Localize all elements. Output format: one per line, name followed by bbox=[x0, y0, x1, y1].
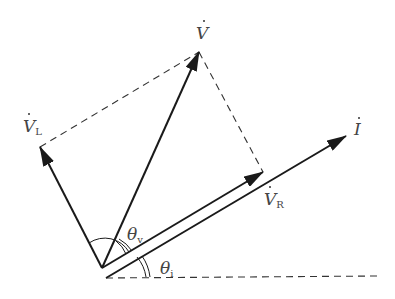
label-vl-text: V bbox=[23, 116, 35, 136]
label-i-text: I bbox=[354, 119, 361, 139]
label-vl: VL bbox=[23, 118, 42, 137]
dashed-vl-to-v bbox=[40, 52, 199, 147]
label-vl-subscript: L bbox=[35, 126, 42, 137]
label-vr-subscript: R bbox=[276, 199, 284, 210]
vectors bbox=[40, 52, 346, 278]
vector-v bbox=[102, 52, 199, 268]
label-vr: VR bbox=[264, 191, 284, 210]
label-theta-v: θv bbox=[127, 226, 143, 245]
phasor-drawing bbox=[0, 0, 395, 299]
label-v: V bbox=[196, 25, 208, 42]
dot-v bbox=[203, 20, 205, 22]
dashed-v-to-vr bbox=[199, 52, 263, 172]
label-theta-i-subscript: i bbox=[170, 268, 173, 279]
dashed-horizontal-reference bbox=[106, 276, 378, 278]
dot-vl bbox=[28, 113, 30, 115]
label-i: I bbox=[354, 121, 361, 138]
label-vr-text: V bbox=[264, 189, 276, 209]
label-v-text: V bbox=[196, 23, 208, 43]
arc-right-angle bbox=[89, 238, 129, 252]
label-theta-i-text: θ bbox=[160, 258, 170, 278]
dot-vr bbox=[269, 186, 271, 188]
label-theta-i: θi bbox=[160, 260, 173, 279]
label-theta-v-text: θ bbox=[127, 224, 137, 244]
vector-vl bbox=[40, 147, 102, 268]
phasor-diagram: V VL VR I θv θi bbox=[0, 0, 395, 299]
label-theta-v-subscript: v bbox=[137, 234, 143, 245]
